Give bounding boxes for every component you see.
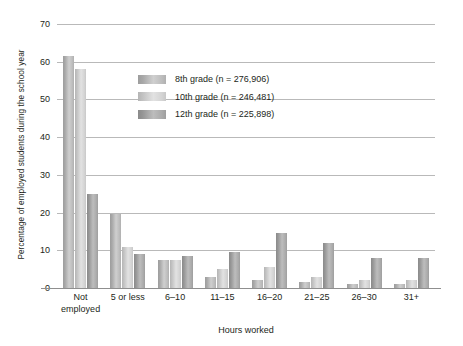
- bar: [264, 267, 275, 288]
- x-axis-tick-labels: Not employed5 or less6–1011–1516–2021–25…: [57, 292, 435, 315]
- legend-label: 12th grade (n = 225,898): [175, 109, 274, 119]
- bar: [158, 260, 169, 288]
- x-axis-tick-label: 26–30: [341, 292, 388, 315]
- bar: [205, 277, 216, 288]
- y-axis-title: Percentage of employed students during t…: [17, 30, 26, 280]
- x-axis-tick-label: 31+: [388, 292, 435, 315]
- x-axis-tick-label: 6–10: [152, 292, 199, 315]
- bar-group: [199, 24, 246, 288]
- bar-group: [152, 24, 199, 288]
- x-axis-tick-label: 11–15: [199, 292, 246, 315]
- bar: [371, 258, 382, 288]
- bar-group: [388, 24, 435, 288]
- bar-group: [104, 24, 151, 288]
- bar: [359, 280, 370, 288]
- y-axis-tick-label: 40: [40, 132, 50, 142]
- y-axis-tick-label: 10: [40, 245, 50, 255]
- legend-swatch: [138, 110, 166, 119]
- bar-group: [246, 24, 293, 288]
- x-axis-tick-label: 21–25: [293, 292, 340, 315]
- bar: [63, 56, 74, 288]
- bar-group: [293, 24, 340, 288]
- bar-groups: [57, 24, 435, 288]
- plot-area: 010203040506070: [57, 24, 435, 288]
- bar: [182, 256, 193, 288]
- legend: 8th grade (n = 276,906)10th grade (n = 2…: [138, 74, 274, 119]
- y-axis-tick-label: 60: [40, 57, 50, 67]
- bar-group: [341, 24, 388, 288]
- legend-label: 8th grade (n = 276,906): [175, 74, 269, 84]
- bar: [252, 280, 263, 288]
- bar: [276, 233, 287, 288]
- x-axis-line: [41, 288, 441, 289]
- bar: [122, 247, 133, 288]
- x-axis-title: Hours worked: [57, 325, 435, 335]
- y-axis-tick-label: 20: [40, 208, 50, 218]
- bar: [323, 243, 334, 288]
- y-axis-tick-label: 50: [40, 94, 50, 104]
- x-axis-tick-label: Not employed: [57, 292, 104, 315]
- bar-chart: Percentage of employed students during t…: [0, 0, 463, 346]
- y-axis-tick-label: 70: [40, 19, 50, 29]
- bar: [134, 254, 145, 288]
- legend-swatch: [138, 92, 166, 101]
- legend-item: 10th grade (n = 246,481): [138, 92, 274, 102]
- x-axis-tick-label: 16–20: [246, 292, 293, 315]
- bar: [311, 277, 322, 288]
- legend-item: 8th grade (n = 276,906): [138, 74, 274, 84]
- bar: [217, 269, 228, 288]
- bar: [75, 69, 86, 288]
- bar: [110, 214, 121, 288]
- legend-label: 10th grade (n = 246,481): [175, 92, 274, 102]
- bar: [170, 260, 181, 288]
- x-axis-tick-label: 5 or less: [104, 292, 151, 315]
- bar-group: [57, 24, 104, 288]
- bar: [229, 252, 240, 288]
- legend-swatch: [138, 75, 166, 84]
- bar: [418, 258, 429, 288]
- legend-item: 12th grade (n = 225,898): [138, 109, 274, 119]
- y-axis-tick-label: 30: [40, 170, 50, 180]
- bar: [406, 280, 417, 288]
- bar: [87, 194, 98, 288]
